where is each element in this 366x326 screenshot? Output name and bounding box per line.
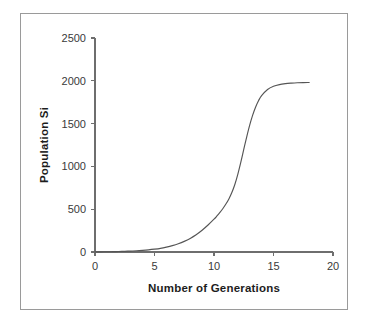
- y-tick-label-0: 0: [80, 246, 86, 258]
- y-tick-label-1500: 1500: [62, 118, 86, 130]
- x-tick-label-5: 5: [151, 260, 157, 272]
- x-tick-marks: [95, 252, 333, 256]
- x-tick-label-10: 10: [208, 260, 220, 272]
- x-tick-label-15: 15: [267, 260, 279, 272]
- y-tick-label-500: 500: [68, 203, 86, 215]
- y-tick-marks: [91, 38, 95, 252]
- y-axis-title: Population Si: [38, 107, 50, 183]
- x-tick-label-20: 20: [327, 260, 339, 272]
- x-axis-title: Number of Generations: [148, 282, 280, 294]
- y-tick-label-1000: 1000: [62, 160, 86, 172]
- data-series-population-si: [95, 83, 309, 252]
- y-tick-label-2500: 2500: [62, 32, 86, 44]
- chart-plot: 0 500 1000 1500 2000 2500 0 5 10 15 20 N…: [0, 0, 366, 326]
- y-tick-label-2000: 2000: [62, 75, 86, 87]
- x-tick-label-0: 0: [92, 260, 98, 272]
- chart-figure: 0 500 1000 1500 2000 2500 0 5 10 15 20 N…: [0, 0, 366, 326]
